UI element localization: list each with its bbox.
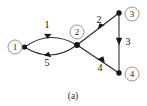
edge-weight-2: 2 xyxy=(97,14,102,25)
edge-weight-3: 3 xyxy=(126,36,131,47)
node-2-label: 2 xyxy=(75,27,80,37)
edge-1-to-2-path xyxy=(25,37,78,47)
figure-container: 1 2 3 4 1 5 2 3 4 (a) xyxy=(0,0,147,106)
junction-dot-node-4 xyxy=(116,70,121,75)
node-3-label: 3 xyxy=(130,9,135,19)
figure-caption: (a) xyxy=(68,91,79,102)
node-4-label: 4 xyxy=(130,69,135,79)
junction-dot-node-3 xyxy=(116,10,121,15)
edge-weight-4: 4 xyxy=(98,62,103,73)
edge-weight-5: 5 xyxy=(45,57,50,68)
node-1-label: 1 xyxy=(13,42,18,52)
graph-diagram: 1 2 3 4 1 5 2 3 4 (a) xyxy=(0,0,147,106)
edge-2-to-1-path xyxy=(25,45,78,55)
edge-3-to-4-arrowhead xyxy=(116,38,122,46)
edge-weight-1: 1 xyxy=(45,19,50,30)
junction-dot-node-2 xyxy=(74,42,80,48)
junction-dot-node-1 xyxy=(22,44,27,49)
